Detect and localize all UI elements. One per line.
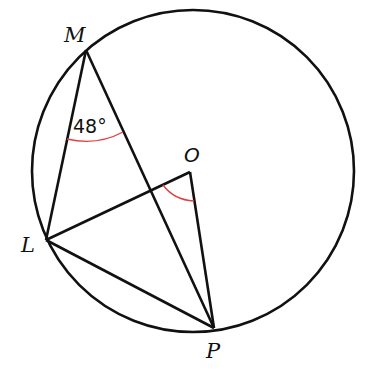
geometry-diagram: M O L P 48° <box>0 0 373 369</box>
segment-LP <box>46 240 214 328</box>
point-label-M: M <box>63 23 86 47</box>
angle-arc-O <box>163 185 194 201</box>
point-label-O: O <box>184 143 200 167</box>
point-label-L: L <box>20 233 35 257</box>
segment-ML <box>46 50 86 240</box>
point-label-P: P <box>205 339 221 363</box>
segment-MP <box>86 50 214 328</box>
diagram-svg: M O L P 48° <box>0 0 373 369</box>
angle-label-M: 48° <box>73 115 107 137</box>
